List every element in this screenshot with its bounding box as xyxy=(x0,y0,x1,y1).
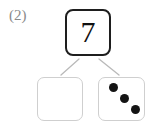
part-box-right-dots[interactable] xyxy=(98,77,145,121)
dot-2 xyxy=(120,94,129,103)
number-bond-diagram: (2) 7 xyxy=(0,0,155,127)
connector-line-left xyxy=(61,59,79,75)
connector-line-right xyxy=(99,59,119,75)
whole-number-box[interactable]: 7 xyxy=(65,9,111,56)
dot-1 xyxy=(109,83,118,92)
problem-number-label: (2) xyxy=(9,7,27,23)
whole-number-value: 7 xyxy=(81,17,96,47)
part-box-left-empty[interactable] xyxy=(37,77,83,121)
dot-3 xyxy=(131,105,140,114)
